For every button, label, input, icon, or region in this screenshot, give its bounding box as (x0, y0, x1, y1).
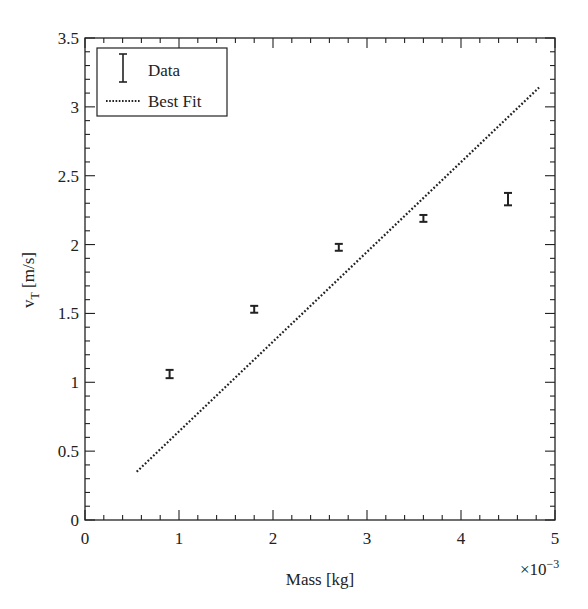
chart: 012345 00.511.522.533.5 Mass [kg] ×10−3 … (0, 0, 588, 609)
x-tick-label: 3 (363, 529, 372, 548)
y-tick-label: 1.5 (58, 304, 79, 323)
y-axis-label: vT [m/s] (19, 252, 42, 308)
x-tick-label: 0 (81, 529, 90, 548)
legend: Data Best Fit (97, 48, 227, 116)
y-tick-label: 0.5 (58, 442, 79, 461)
y-tick-label: 2.5 (58, 167, 79, 186)
y-tick-labels: 00.511.522.533.5 (58, 29, 79, 530)
data-point (250, 306, 258, 313)
y-tick-label: 0 (71, 511, 80, 530)
data-errorbars (166, 193, 512, 378)
legend-label-data: Data (148, 61, 181, 80)
y-tick-label: 3.5 (58, 29, 79, 48)
data-point (166, 370, 174, 378)
y-tick-label: 1 (71, 373, 80, 392)
x-tick-label: 2 (269, 529, 278, 548)
y-tick-label: 3 (71, 98, 80, 117)
y-tick-label: 2 (71, 236, 80, 255)
x-tick-label: 5 (551, 529, 560, 548)
data-point (419, 215, 427, 222)
best-fit-path (137, 88, 539, 472)
x-tick-labels: 012345 (81, 529, 560, 548)
legend-label-best-fit: Best Fit (148, 92, 202, 111)
data-point (335, 244, 343, 251)
x-multiplier: ×10−3 (520, 557, 559, 579)
best-fit-line (137, 88, 539, 472)
data-point (504, 193, 512, 205)
x-tick-label: 1 (175, 529, 184, 548)
x-axis-label: Mass [kg] (286, 570, 354, 589)
x-tick-label: 4 (457, 529, 466, 548)
